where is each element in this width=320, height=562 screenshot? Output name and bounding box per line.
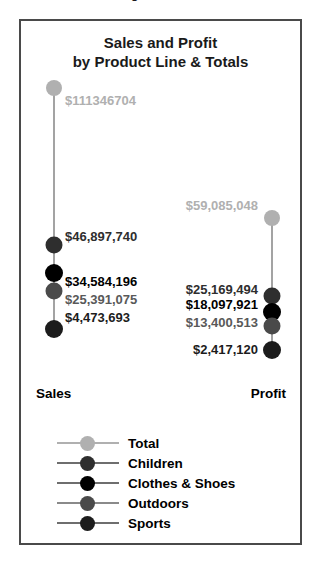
profit-value-sports: $2,417,120 (108, 343, 258, 357)
sales-point-clothes (45, 264, 63, 282)
chart-legend: Total Children Clothes & Shoes Outdoors (57, 433, 287, 533)
sales-point-total (46, 80, 62, 96)
sales-point-children (46, 237, 63, 254)
legend-label-total: Total (119, 436, 159, 451)
sales-point-outdoors (46, 283, 63, 300)
profit-value-total: $59,085,048 (108, 199, 258, 213)
legend-label-clothes-and-shoes: Clothes & Shoes (119, 476, 235, 491)
legend-label-outdoors: Outdoors (119, 496, 189, 511)
profit-point-outdoors (264, 318, 281, 335)
legend-item-clothes-and-shoes[interactable]: Clothes & Shoes (57, 473, 287, 493)
legend-marker-sports (57, 513, 119, 533)
sales-value-children: $46,897,740 (65, 230, 137, 244)
axis-label-sales: Sales (36, 386, 71, 401)
profit-value-children: $25,169,494 (108, 283, 258, 297)
profit-point-sports (263, 341, 281, 359)
sales-value-total: $111346704 (65, 94, 136, 108)
legend-label-children: Children (119, 456, 183, 471)
legend-marker-children (57, 453, 119, 473)
chart-container: Sales and Profit by Product Line & Total… (19, 19, 302, 545)
legend-label-sports: Sports (119, 516, 171, 531)
profit-value-outdoors: $13,400,513 (108, 316, 258, 330)
legend-item-total[interactable]: Total (57, 433, 287, 453)
profit-value-clothes: $18,097,921 (108, 298, 258, 312)
axis-label-profit: Profit (251, 386, 286, 401)
legend-item-outdoors[interactable]: Outdoors (57, 493, 287, 513)
legend-item-sports[interactable]: Sports (57, 513, 287, 533)
legend-marker-clothes-and-shoes (57, 473, 119, 493)
legend-marker-total (57, 433, 119, 453)
profit-point-total (264, 210, 280, 226)
legend-marker-outdoors (57, 493, 119, 513)
profit-point-children (264, 288, 281, 305)
page-header: Charts: Charts for Categorical Data (10, 0, 310, 5)
legend-item-children[interactable]: Children (57, 453, 287, 473)
sales-point-sports (45, 320, 63, 338)
